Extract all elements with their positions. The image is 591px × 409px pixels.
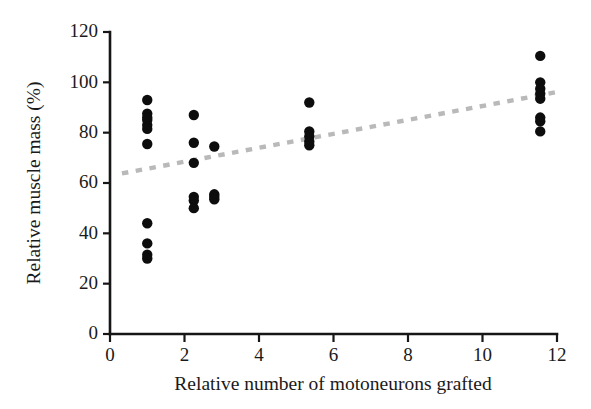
data-point (142, 238, 152, 248)
plot-canvas: 020406080100120024681012 Relative number… (0, 0, 591, 409)
x-tick-label: 0 (105, 344, 115, 365)
data-point (142, 95, 152, 105)
data-point (304, 97, 314, 107)
x-tick-label: 8 (403, 344, 413, 365)
x-tick-label: 6 (329, 344, 339, 365)
y-tick-label: 80 (79, 121, 98, 142)
y-tick-label: 20 (79, 272, 98, 293)
y-tick-label: 100 (70, 71, 99, 92)
data-point (189, 110, 199, 120)
axis-ticks (103, 32, 557, 342)
trendline (122, 92, 555, 173)
data-point (535, 51, 545, 61)
data-point (189, 138, 199, 148)
x-tick-label: 2 (180, 344, 190, 365)
y-tick-label: 120 (70, 20, 99, 41)
data-point (209, 141, 219, 151)
y-axis-title: Relative muscle mass (%) (23, 81, 45, 284)
scatter-plot-figure: 020406080100120024681012 Relative number… (0, 0, 591, 409)
x-tick-label: 10 (473, 344, 492, 365)
trend-line-dotted (122, 92, 555, 173)
data-point (535, 93, 545, 103)
y-tick-label: 0 (89, 322, 99, 343)
data-point (189, 203, 199, 213)
data-point (142, 218, 152, 228)
data-point (189, 158, 199, 168)
data-point (142, 253, 152, 263)
y-tick-label: 60 (79, 171, 98, 192)
x-tick-label: 4 (254, 344, 264, 365)
data-point (142, 112, 152, 122)
data-point (209, 194, 219, 204)
y-tick-label: 40 (79, 222, 98, 243)
data-point (535, 126, 545, 136)
data-points (142, 51, 545, 264)
data-point (142, 124, 152, 134)
data-point (535, 116, 545, 126)
axes (110, 32, 557, 334)
axis-tick-labels: 020406080100120024681012 (70, 20, 567, 364)
data-point (304, 140, 314, 150)
x-axis-title: Relative number of motoneurons grafted (174, 373, 492, 394)
x-tick-label: 12 (548, 344, 567, 365)
data-point (142, 139, 152, 149)
